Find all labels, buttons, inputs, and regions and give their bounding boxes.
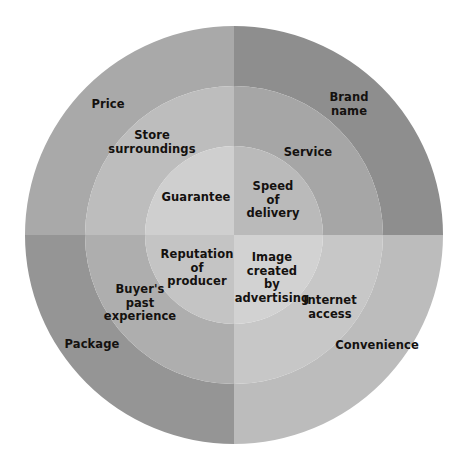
- diagram-canvas: [0, 0, 470, 463]
- concentric-circles-diagram: PriceStore surroundingsGuaranteeBrand na…: [0, 0, 470, 463]
